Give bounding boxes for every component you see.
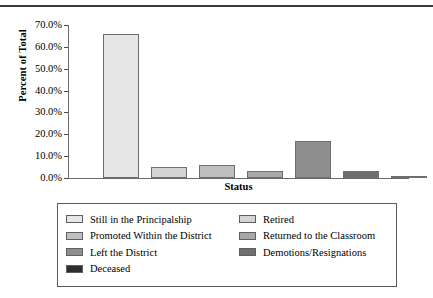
top-divider-rule <box>0 5 433 7</box>
legend-item[interactable]: Deceased <box>66 261 231 278</box>
legend-item-label: Deceased <box>90 263 130 274</box>
legend-swatch-icon <box>66 232 83 240</box>
bar <box>199 165 235 178</box>
legend-swatch-icon <box>239 248 256 256</box>
legend-item[interactable]: Promoted Within the District <box>66 228 231 245</box>
chart-figure: Percent of Total 70.0%60.0%50.0%40.0%30.… <box>0 0 433 298</box>
legend-item-label: Returned to the Classroom <box>263 230 375 241</box>
legend-item[interactable]: Demotions/Resignations <box>239 244 396 261</box>
bar-series <box>69 25 409 178</box>
legend-swatch-icon <box>66 215 83 223</box>
y-axis-tick-label: 30.0% <box>20 107 62 117</box>
y-axis-tick-label: 50.0% <box>20 64 62 74</box>
legend-item-label: Promoted Within the District <box>90 230 212 241</box>
y-axis-tick-label: 10.0% <box>20 151 62 161</box>
legend-item-label: Still in the Principalship <box>90 214 192 225</box>
y-axis-tick-label: 40.0% <box>20 86 62 96</box>
legend-item[interactable]: Still in the Principalship <box>66 211 231 228</box>
legend-item[interactable]: Retired <box>239 211 396 228</box>
bar <box>103 34 139 178</box>
legend-item[interactable]: Returned to the Classroom <box>239 228 396 245</box>
legend-item[interactable]: Left the District <box>66 244 231 261</box>
y-axis-tick-label: 20.0% <box>20 129 62 139</box>
legend-column-left: Still in the PrincipalshipPromoted Withi… <box>66 211 231 286</box>
legend-swatch-icon <box>66 265 83 273</box>
bar <box>391 176 427 178</box>
bar <box>247 171 283 178</box>
legend-item-label: Retired <box>263 214 294 225</box>
legend-column-right: RetiredReturned to the ClassroomDemotion… <box>231 211 396 286</box>
legend-swatch-icon <box>239 232 256 240</box>
legend-item-label: Demotions/Resignations <box>263 247 366 258</box>
y-axis-tick-label: 60.0% <box>20 42 62 52</box>
legend-swatch-icon <box>66 248 83 256</box>
legend-item-label: Left the District <box>90 247 157 258</box>
y-axis-tick-label: 70.0% <box>20 20 62 30</box>
y-axis-tick-label: 0.0% <box>20 173 62 183</box>
bar <box>151 167 187 178</box>
y-axis-tick-labels: 70.0%60.0%50.0%40.0%30.0%20.0%10.0%0.0% <box>16 14 62 196</box>
legend-box: Still in the PrincipalshipPromoted Withi… <box>57 203 397 287</box>
plot-area: Percent of Total 70.0%60.0%50.0%40.0%30.… <box>0 14 433 196</box>
bar <box>295 141 331 178</box>
bar <box>343 171 379 178</box>
legend-swatch-icon <box>239 215 256 223</box>
x-axis-title: Status <box>68 181 409 192</box>
